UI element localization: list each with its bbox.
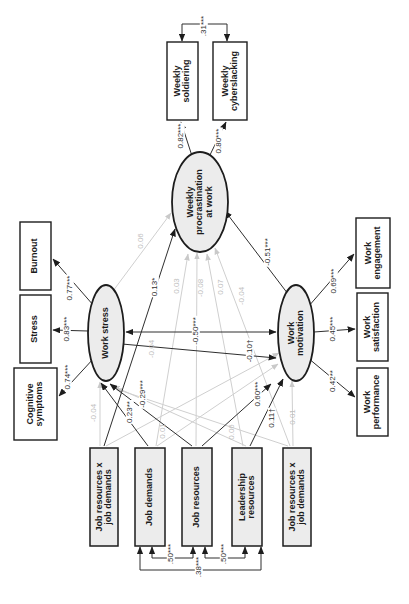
coef-jobresources-procrastination: -0.08: [197, 279, 205, 297]
coef-stress-procrastination: 0.06: [137, 233, 145, 249]
label-job-resources: Job resources: [192, 466, 201, 528]
coef-leadership-stress: 0.06: [228, 424, 236, 440]
coef-jobdemands-stress: 0.23**: [126, 400, 134, 424]
label-stress: Stress: [30, 315, 39, 343]
coef-motivation-satisfaction: 0.45***: [329, 316, 337, 343]
coef-stress-motivation-path: -0.10†: [246, 339, 254, 364]
label-work-satisfaction: Work satisfaction: [363, 302, 382, 352]
label-work-engagement: Work engagement: [364, 226, 383, 279]
label-cognitive-symptoms: Cognitive symptoms: [26, 381, 45, 426]
coef-procr-soldiering: 0.82***: [177, 123, 185, 150]
coef-jrxjd2-procrastination: -0.04: [238, 287, 246, 305]
coef-stress-motivation-cov: -0.50***: [192, 316, 200, 346]
coef-jobresources-motivation: 0.60***: [254, 381, 262, 408]
coef-jobresources-leadership-cov: .50***: [220, 543, 228, 565]
coef-stress-cognitive: 0.74***: [64, 364, 72, 391]
diagram-canvas: [0, 0, 409, 604]
coef-stress-burnout: 0.77***: [66, 275, 74, 302]
label-work-performance: Work performance: [363, 375, 382, 430]
path-work-stress-to-procrastination: [113, 213, 171, 291]
coef-motivation-performance: 0.42**: [329, 369, 337, 393]
coef-jobdemands-motivation: 0.01: [159, 423, 167, 439]
label-weekly-procrastination: Weekly procrastination at work: [186, 169, 214, 235]
label-jrxjd-2: Job resources x job demands: [288, 462, 307, 531]
coef-stress-stressbox: 0.83***: [63, 316, 71, 343]
path-motivation-to-procrastination: [225, 211, 288, 294]
label-jrxjd-1: Job resources x job demands: [95, 462, 114, 531]
coef-leadership-motivation: 0.11†: [268, 407, 276, 428]
label-burnout: Burnout: [30, 239, 39, 274]
sem-diagram: Weekly soldiering Weekly cyberslacking B…: [0, 0, 409, 604]
coef-jrxjd2-motivation: 0.01: [289, 409, 297, 425]
label-work-motivation: Work motivation: [287, 310, 306, 356]
coef-jobresources-stress: -0.29***: [139, 379, 147, 409]
coef-jobdemands-jobresources-cov: .50***: [167, 543, 175, 565]
coef-leadership-procrastination: 0.07: [217, 279, 225, 295]
coef-jrxjd1-stress: -0.04: [90, 404, 98, 422]
coef-jobdemands-leadership-cov: .38***: [195, 556, 203, 578]
label-weekly-cyberslacking: Weekly cyberslacking: [221, 51, 240, 111]
coef-jobdemands-procrastination: 0.03: [173, 278, 181, 294]
coef-motivation-engagement: 0.69***: [330, 268, 338, 295]
coef-jrxjd1-motivation: -0.04: [148, 340, 156, 358]
coef-procr-cyberslacking: 0.80***: [215, 128, 223, 155]
label-weekly-soldiering: Weekly soldiering: [173, 59, 192, 102]
coef-soldiering-cyberslacking-cov: .31***: [200, 15, 208, 37]
label-leadership-resources: Leadership resources: [238, 473, 257, 521]
label-job-demands: Job demands: [145, 468, 154, 526]
label-work-stress: Work stress: [101, 307, 110, 358]
coef-jrxjd1-procrastination: 0.13*: [151, 277, 159, 298]
coef-motivation-procrastination: -0.51***: [264, 237, 272, 267]
